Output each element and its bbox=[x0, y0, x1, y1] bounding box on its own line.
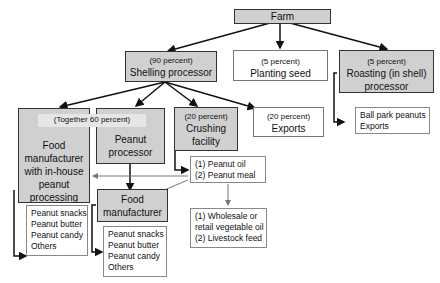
list-item: Others bbox=[108, 262, 162, 273]
farm-label: Farm bbox=[235, 10, 330, 23]
list-item: Peanut snacks bbox=[31, 208, 83, 219]
list-item: (2) Livestock feed bbox=[195, 233, 262, 244]
roasting-percent: (5 percent) bbox=[340, 56, 433, 67]
list-item: Peanut candy bbox=[108, 251, 162, 262]
inhouse-products-list: Peanut snacks Peanut butter Peanut candy… bbox=[26, 205, 88, 256]
crushing-products-list: (1) Peanut oil (2) Peanut meal bbox=[190, 156, 266, 183]
farm-node: Farm bbox=[234, 9, 331, 24]
exports-percent: (20 percent) bbox=[254, 111, 323, 122]
together-percent-band: (Together 60 percent) bbox=[38, 114, 146, 127]
list-item: (1) Peanut oil bbox=[195, 159, 261, 170]
crushing-facility-node: (20 percent) Crushing facility bbox=[174, 107, 238, 151]
roasting-products-list: Ball park peanuts Exports bbox=[355, 107, 430, 134]
list-item: Peanut snacks bbox=[108, 229, 162, 240]
food-manufacturer-node: Food manufacturer bbox=[97, 189, 168, 222]
peanut-processor-label: Peanut processor bbox=[97, 133, 164, 159]
inhouse-label: Food manufacturer with in-house peanut p… bbox=[19, 139, 89, 204]
planting-label: Planting seed bbox=[234, 67, 327, 80]
list-item: Ball park peanuts bbox=[360, 110, 425, 121]
list-item: retail vegetable oil bbox=[195, 222, 262, 233]
crushing-label: Crushing facility bbox=[175, 122, 237, 148]
roasting-label: Roasting (in shell) processor bbox=[340, 67, 433, 93]
crushing-uses-list: (1) Wholesale or retail vegetable oil (2… bbox=[190, 208, 267, 248]
list-item: Exports bbox=[360, 121, 425, 132]
exports-label: Exports bbox=[254, 122, 323, 135]
shelling-label: Shelling processor bbox=[126, 66, 216, 79]
list-item: Peanut butter bbox=[108, 240, 162, 251]
planting-seed-node: (5 percent) Planting seed bbox=[233, 50, 328, 81]
list-item: (1) Wholesale or bbox=[195, 211, 262, 222]
manufacturer-products-list: Peanut snacks Peanut butter Peanut candy… bbox=[103, 226, 167, 277]
planting-percent: (5 percent) bbox=[234, 56, 327, 67]
list-item: Others bbox=[31, 241, 83, 252]
shelling-percent: (90 percent) bbox=[126, 55, 216, 66]
list-item: (2) Peanut meal bbox=[195, 170, 261, 181]
exports-node: (20 percent) Exports bbox=[253, 107, 324, 137]
roasting-processor-node: (5 percent) Roasting (in shell) processo… bbox=[339, 50, 434, 93]
crushing-percent: (20 percent) bbox=[175, 111, 237, 122]
food-manufacturer-label: Food manufacturer bbox=[98, 193, 167, 219]
list-item: Peanut candy bbox=[31, 230, 83, 241]
list-item: Peanut butter bbox=[31, 219, 83, 230]
shelling-processor-node: (90 percent) Shelling processor bbox=[125, 51, 217, 82]
